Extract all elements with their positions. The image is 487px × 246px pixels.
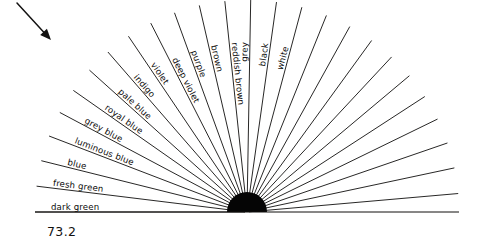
ray-label-blue: blue xyxy=(67,157,88,171)
ray-label-purple: purple xyxy=(189,49,208,79)
ray-label-grey: grey xyxy=(239,42,249,62)
ray-label-dark-green: dark green xyxy=(51,202,99,212)
ray-line xyxy=(249,194,458,212)
ray-lines xyxy=(35,0,458,212)
ray-line xyxy=(249,119,438,211)
hub-semicircle xyxy=(227,192,267,212)
ray-line xyxy=(128,36,245,210)
ray-line xyxy=(248,7,302,210)
ray-line xyxy=(225,1,247,210)
fan-diagram: dark greenfresh greenblueluminous bluegr… xyxy=(0,0,487,246)
ray-line xyxy=(199,5,246,210)
figure-73-2: dark greenfresh greenblueluminous bluegr… xyxy=(0,0,487,246)
figure-caption: 73.2 xyxy=(47,224,76,239)
ray-line xyxy=(247,0,251,210)
arrow-shaft xyxy=(17,3,45,34)
ray-line xyxy=(249,97,425,211)
ray-line xyxy=(249,168,454,212)
ray-line xyxy=(247,2,276,210)
pointer-arrow xyxy=(17,3,51,40)
ray-line xyxy=(249,76,410,211)
ray-label-indigo: indigo xyxy=(132,72,157,99)
ray-line xyxy=(108,52,246,210)
ray-line xyxy=(249,143,448,211)
